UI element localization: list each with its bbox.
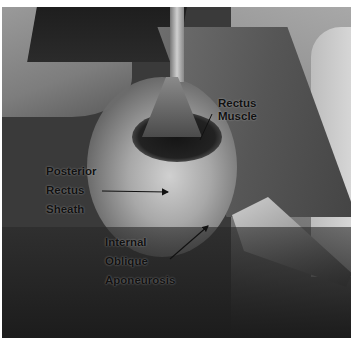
label-line: Sheath [46, 200, 97, 219]
label-posterior-rectus-sheath: Posterior Rectus Sheath [46, 162, 97, 219]
label-line: Muscle [218, 110, 257, 123]
label-line: Posterior [46, 162, 97, 181]
label-line: Internal [105, 233, 175, 252]
posterior-sheath-arrow [102, 191, 168, 192]
label-line: Rectus [46, 181, 97, 200]
label-line: Oblique [105, 252, 175, 271]
rectus-muscle-pointer [200, 114, 212, 140]
label-rectus-muscle: Rectus Muscle [218, 97, 257, 123]
oblique-arrow [170, 226, 208, 259]
label-line: Aponeurosis [105, 271, 175, 290]
label-line: Rectus [218, 97, 257, 110]
label-internal-oblique-aponeurosis: Internal Oblique Aponeurosis [105, 233, 175, 290]
